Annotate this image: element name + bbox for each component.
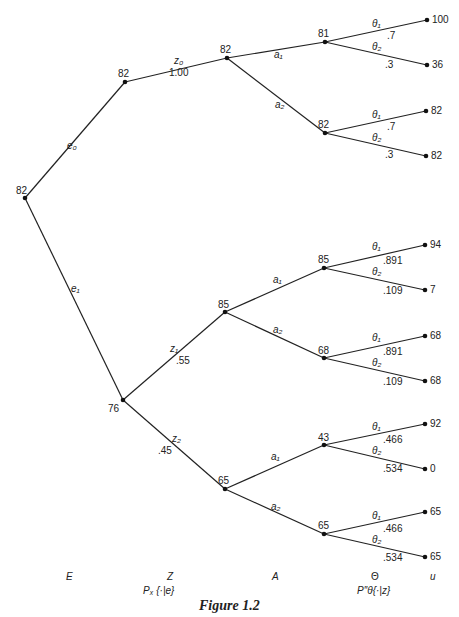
theta1-prob: .466 [383,524,402,534]
edge-a2-label-top: a₂ [275,100,284,110]
node-z0-value: 82 [220,45,231,55]
theta2-label: θ₂ [372,42,381,52]
stage-label-Theta: Θ [371,572,379,582]
node-e0-value: 82 [118,69,129,79]
node-root-value: 82 [16,186,27,196]
edge-a2-label-mid: a₂ [273,325,282,335]
leaf-utility: 82 [431,151,442,161]
theta2-label: θ₂ [372,535,381,545]
theta2-label: θ₂ [372,358,381,368]
node-z0-a1-value: 81 [318,29,329,39]
stage-label-A: A [272,572,279,582]
leaf-utility: 65 [430,507,441,517]
theta2-prob: .109 [383,286,402,296]
leaf-utility: 94 [430,240,441,250]
theta2-prob: .534 [383,464,402,474]
leaf-utility: 7 [430,285,436,295]
leaf-utility: 36 [432,60,443,70]
leaf-utility: 100 [432,15,449,25]
node-z2-a1-value: 43 [318,433,329,443]
stage-label-E: E [66,572,73,582]
leaf-utility: 65 [430,552,441,562]
theta1-prob: .891 [383,347,402,357]
edge-a1-label-bottom: a₁ [271,452,280,462]
leaf-utility: 68 [430,331,441,341]
theta1-label: θ₁ [372,422,381,432]
theta1-prob: .7 [387,31,395,41]
edge-a1-label-mid: a₁ [273,275,282,285]
node-z2-a2-value: 65 [318,521,329,531]
edge-z2-label: z₂ [172,434,181,444]
theta1-label: θ₁ [372,511,381,521]
theta1-label: θ₁ [372,110,381,120]
leaf-utility: 82 [431,106,442,116]
node-z1-value: 85 [218,300,229,310]
stage-label-u: u [430,572,436,582]
node-z2-value: 65 [218,476,229,486]
edge-z2-prob: .45 [158,446,172,456]
theta2-prob: .109 [383,377,402,387]
edge-a2-label-bottom: a₂ [271,502,280,512]
node-z1-a1-value: 85 [318,255,329,265]
edge-z1-label: z₁ [170,344,178,354]
leaf-utility: 92 [430,419,441,429]
stage-sublabel-Z: Pₓ {·|e} [143,586,174,596]
leaf-utility: 68 [430,376,441,386]
leaf-utility: 0 [430,464,436,474]
edge-z1-prob: .55 [176,356,190,366]
edge-z0-prob: 1.00 [169,68,188,78]
node-z1-a2-value: 68 [318,346,329,356]
theta1-prob: .466 [383,435,402,445]
theta2-prob: .3 [385,150,393,160]
theta1-prob: .891 [383,256,402,266]
edge-e1-label: e₁ [71,284,80,294]
theta1-label: θ₁ [372,333,381,343]
edge-a1-label-top: a₁ [274,50,283,60]
theta2-prob: .3 [385,60,393,70]
edge-z0-label: z₀ [174,56,183,66]
theta1-label: θ₁ [372,242,381,252]
theta2-label: θ₂ [372,267,381,277]
theta1-label: θ₁ [372,19,381,29]
figure-caption: Figure 1.2 [199,598,260,614]
theta1-prob: .7 [387,122,395,132]
edge-e0-label: e₀ [67,141,77,151]
node-e1-value: 76 [108,404,119,414]
node-z0-a2-value: 82 [318,120,329,130]
theta2-label: θ₂ [372,133,381,143]
theta2-label: θ₂ [372,446,381,456]
stage-sublabel-Theta: P″θ{·|z} [357,586,390,596]
theta2-prob: .534 [383,553,402,563]
stage-label-Z: Z [167,572,173,582]
